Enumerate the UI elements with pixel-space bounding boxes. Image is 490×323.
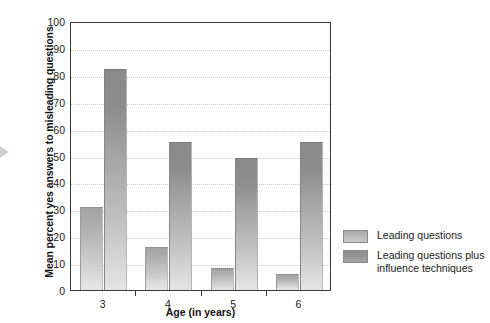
legend-swatch-leading-questions [343, 230, 368, 243]
y-axis-tick-label: 70 [36, 97, 65, 109]
y-axis-tick-label: 0 [36, 285, 65, 297]
y-axis-tick-label: 30 [36, 204, 65, 216]
y-axis-tick-label: 50 [36, 151, 65, 163]
bar [300, 142, 323, 290]
bar [276, 274, 299, 290]
y-axis-tick-label: 20 [36, 231, 65, 243]
y-axis-tick-label: 40 [36, 177, 65, 189]
bar [80, 207, 103, 290]
legend-item: Leading questions plus influence techniq… [343, 249, 484, 274]
x-axis-title: Age (in years) [70, 306, 331, 318]
x-axis-tick-mark [135, 291, 136, 296]
gridline [71, 50, 330, 52]
bar [104, 69, 127, 290]
y-axis-tick-label: 90 [36, 43, 65, 55]
y-axis-tick-label: 60 [36, 124, 65, 136]
plot-inner [71, 23, 330, 290]
chart-legend: Leading questions Leading questions plus… [343, 229, 484, 280]
legend-label-influence-techniques: Leading questions plus influence techniq… [377, 249, 484, 274]
bar [235, 158, 258, 290]
y-axis-tick-label: 100 [36, 16, 65, 28]
bar [169, 142, 192, 290]
x-axis-tick-mark [266, 291, 267, 296]
x-axis-tick-mark [201, 291, 202, 296]
legend-label-leading-questions: Leading questions [377, 229, 462, 242]
y-axis-tick-label: 80 [36, 70, 65, 82]
legend-swatch-influence-techniques [343, 250, 368, 263]
bar [211, 268, 234, 290]
legend-item: Leading questions [343, 229, 484, 243]
bar-chart-figure: Mean percent yes answers to misleading q… [0, 0, 490, 323]
plot-area [70, 22, 331, 291]
bar [145, 247, 168, 290]
y-axis-tick-label: 10 [36, 258, 65, 270]
